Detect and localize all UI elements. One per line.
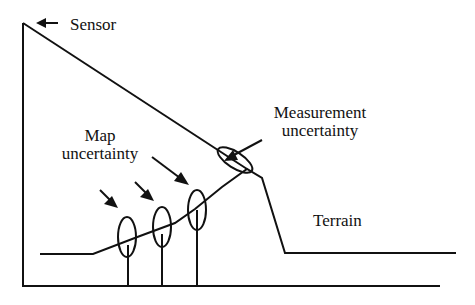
meas-label-line1: Measurement (260, 104, 380, 122)
map-arrow-2-shaft (135, 182, 146, 193)
map-arrow-3-shaft (152, 157, 180, 178)
uncertainty-diagram: Sensor Map uncertainty Measurement uncer… (0, 0, 475, 305)
meas-label-line2: uncertainty (260, 122, 380, 140)
terrain-profile (40, 169, 456, 254)
measurement-uncertainty-label: Measurement uncertainty (260, 104, 380, 140)
sensor-label: Sensor (70, 16, 116, 34)
map-arrow-2-icon (140, 189, 154, 201)
map-label-line1: Map (50, 127, 150, 145)
sensor-arrow-icon (36, 18, 46, 28)
terrain-label: Terrain (313, 212, 362, 230)
map-label-line2: uncertainty (50, 145, 150, 163)
meas-arrow-shaft (234, 140, 262, 155)
map-uncertainty-label: Map uncertainty (50, 127, 150, 163)
map-arrow-1-shaft (100, 190, 110, 200)
map-arrow-1-icon (104, 196, 118, 208)
